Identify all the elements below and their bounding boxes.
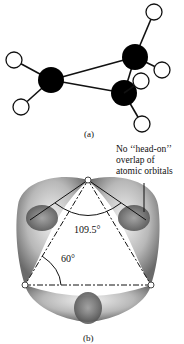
hydrogen-atom-front xyxy=(133,73,149,89)
annotation-line-2: overlap of xyxy=(116,155,173,166)
annotation-line-3: atomic orbitals xyxy=(116,166,173,177)
angle-label-60: 60° xyxy=(61,254,75,264)
carbon-atoms xyxy=(38,44,148,106)
panel-a-label: (a) xyxy=(84,129,94,139)
angle-label-109: 109.5° xyxy=(74,225,101,235)
angle-arc-60 xyxy=(42,256,61,285)
hydrogen-atoms xyxy=(6,4,170,132)
annotation-no-head-on: No ‘‘head-on’’ overlap of atomic orbital… xyxy=(116,144,173,177)
annotation-line-1: No ‘‘head-on’’ xyxy=(116,144,173,155)
panel-b-label: (b) xyxy=(83,333,94,343)
orbital-lobes xyxy=(16,177,159,324)
